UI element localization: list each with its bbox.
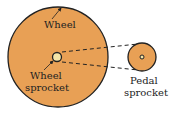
wheel-label: Wheel (44, 19, 76, 30)
wheel-sprocket-label-1: Wheel (30, 70, 62, 81)
wheel-sprocket (53, 53, 62, 62)
pedal-sprocket-label-2: sprocket (124, 87, 168, 98)
pedal-sprocket-label-1: Pedal (130, 75, 158, 86)
wheel-sprocket-label-2: sprocket (25, 82, 69, 93)
diagram: Wheel Wheel sprocket Pedal sprocket (0, 0, 170, 117)
pedal-sprocket-hub (140, 55, 144, 59)
